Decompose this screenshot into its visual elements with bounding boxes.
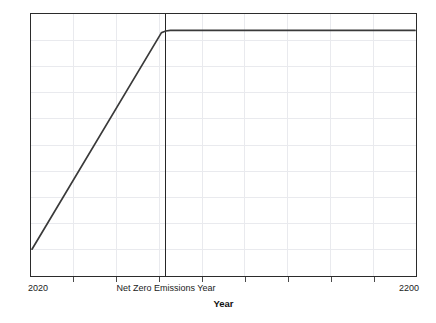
- x-tick-mark: [374, 277, 375, 282]
- x-tick-mark: [73, 277, 74, 282]
- chart-figure: 2020 Net Zero Emissions Year 2200 Year C…: [0, 0, 436, 323]
- x-tick-mark: [116, 277, 117, 282]
- x-tick-mark: [331, 277, 332, 282]
- x-axis-ticks: [30, 277, 417, 282]
- climate-damages-line: [31, 14, 416, 276]
- x-tick-mark: [202, 277, 203, 282]
- x-tick-mark: [159, 277, 160, 282]
- x-tick-mark: [288, 277, 289, 282]
- net-zero-marker-hitarea[interactable]: [161, 14, 172, 277]
- x-tick-label-net-zero: Net Zero Emissions Year: [116, 283, 215, 294]
- x-axis-title: Year: [30, 298, 417, 310]
- x-tick-label-end: 2200: [399, 283, 419, 294]
- plot-area: [30, 13, 417, 277]
- x-tick-mark: [245, 277, 246, 282]
- x-tick-label-start: 2020: [28, 283, 48, 294]
